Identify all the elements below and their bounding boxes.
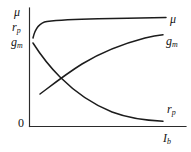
y-axis-label-rp-sub: p <box>17 26 21 35</box>
curve-label-gm: gm <box>166 35 178 49</box>
curve-label-gm-sub: m <box>172 40 178 49</box>
figure-container: μ rp gm 0 μ gm rp Ib <box>0 0 191 152</box>
plot-area <box>0 0 191 152</box>
y-axis-label-gm-sub: m <box>17 41 23 50</box>
y-axis-label-rp: rp <box>12 21 21 35</box>
curve-label-rp: rp <box>167 103 176 117</box>
x-axis-label: Ib <box>163 132 171 146</box>
curve-mu <box>33 18 166 38</box>
curve-label-mu: μ <box>170 13 176 25</box>
y-axis-label-mu: μ <box>14 6 20 18</box>
curve-gm <box>40 35 163 94</box>
curve-label-rp-sub: p <box>172 108 176 117</box>
y-axis-label-gm: gm <box>11 36 23 50</box>
x-axis-label-sub: b <box>167 137 171 146</box>
origin-label: 0 <box>18 117 24 129</box>
